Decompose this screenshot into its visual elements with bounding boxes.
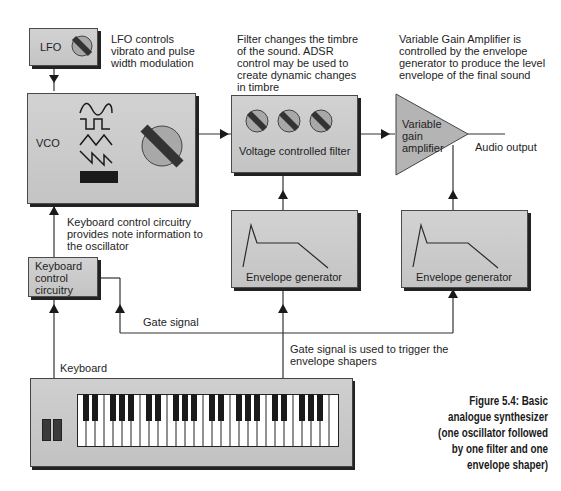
keyboard-control-note: Keyboard control circuitry provides note… [67,216,203,252]
arrow-gate-env-amp [448,289,458,298]
piano-keys[interactable] [77,394,339,447]
sine-wave-icon [80,103,112,115]
envelope-generator-label: Envelope generator [246,271,342,283]
vcf-label: Voltage controlled filter [239,145,350,157]
arrow-kb-to-kbctl [49,304,59,313]
vcf-knob-icon [310,110,332,132]
vcf-knobs [244,108,344,134]
vcf-knob-icon [278,110,300,132]
filter-note: Filter changes the timbre of the sound. … [237,33,358,93]
vga-note: Variable Gain Amplifier is controlled by… [399,33,545,81]
triangle-wave-icon [80,135,112,145]
adsr-curve-icon [240,221,340,269]
noise-icon [80,171,118,183]
synthesizer-diagram: LFO LFO controls vibrato and pulse width… [0,0,561,491]
arrow-vco-to-vcf [220,129,229,139]
keyboard [30,378,353,467]
figure-caption: Figure 5.4: Basic analogue synthesizer (… [438,393,548,473]
vco-knob-icon [138,122,186,170]
audio-output-label: Audio output [475,141,537,153]
vga-label: Variable gain amplifier [402,118,444,154]
arrow-vcf-to-vga [381,129,390,139]
arrow-lfo-to-vco [49,75,59,83]
vco-label: VCO [36,137,60,149]
lfo-note: LFO controls vibrato and pulse width mod… [111,33,195,69]
lfo-knob-icon [70,34,94,58]
keyboard-button-right[interactable] [53,419,62,441]
vco-block: VCO [27,93,196,204]
arrow-env-to-vcf [278,190,288,199]
adsr-curve-icon [410,221,510,269]
arrow-kbctl-to-vco [49,206,59,215]
vcf-block: Voltage controlled filter [231,95,358,173]
square-wave-icon [80,119,110,129]
arrow-gate [115,304,125,313]
keyboard-control-block: Keyboard control circuitry [28,257,98,297]
keyboard-control-label: Keyboard control circuitry [35,260,82,296]
arrow-env-to-vga [448,190,458,199]
keyboard-label: Keyboard [60,362,107,374]
envelope-generator-label: Envelope generator [416,271,512,283]
waveform-icons [78,101,123,191]
sawtooth-wave-icon [80,151,112,165]
envelope-generator-filter: Envelope generator [231,210,358,288]
gate-signal-note: Gate signal is used to trigger the envel… [290,343,448,367]
vcf-knob-icon [246,110,268,132]
envelope-generator-amp: Envelope generator [401,210,528,288]
keyboard-button-left[interactable] [42,419,51,441]
lfo-label: LFO [40,41,61,53]
lfo-block: LFO [29,28,98,66]
arrow-gate-env-filter [278,304,288,313]
gate-signal-label: Gate signal [143,316,199,328]
